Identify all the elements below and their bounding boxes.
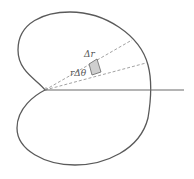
r-delta-theta-label: rΔθ [70,69,86,78]
area-element [89,59,101,75]
cardioid-curve [17,12,151,165]
ray-upper [45,40,132,90]
delta-r-label: Δr [84,50,95,59]
diagram-canvas [0,0,194,179]
